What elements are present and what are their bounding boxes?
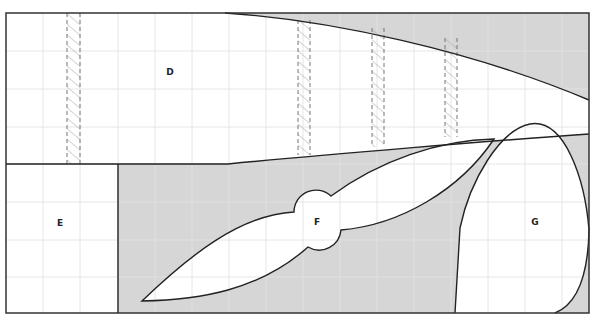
- region-diagram: D E F G: [0, 0, 601, 325]
- hatched-column: [298, 20, 310, 155]
- diagram-canvas: D E F G: [0, 0, 601, 325]
- label-e: E: [57, 218, 63, 228]
- label-g: G: [531, 217, 538, 227]
- hatched-column: [372, 28, 384, 147]
- hatched-column: [67, 13, 80, 164]
- region-e-shape: [6, 164, 118, 313]
- label-d: D: [166, 67, 173, 77]
- label-f: F: [314, 217, 320, 227]
